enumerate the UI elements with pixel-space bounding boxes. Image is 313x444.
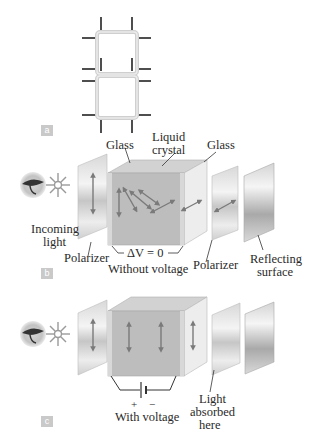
reflecting-surface xyxy=(245,302,274,374)
light-source-star-icon xyxy=(46,322,70,346)
lcd-with-voltage-diagram xyxy=(0,0,313,444)
label-with-voltage: With voltage xyxy=(115,411,179,424)
label-absorbed-3: here xyxy=(199,419,221,432)
battery-icon xyxy=(111,376,176,398)
liquid-crystal-cube xyxy=(108,311,184,376)
panel-tag-c: c xyxy=(41,416,53,427)
eye-icon xyxy=(20,321,46,347)
right-polarizer-plate xyxy=(212,303,240,375)
